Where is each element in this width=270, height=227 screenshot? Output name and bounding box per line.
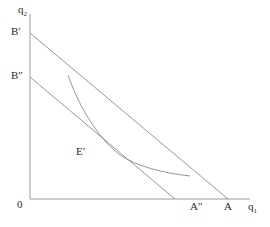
label-a-double-prime-mark: ″ (198, 200, 203, 212)
y-axis-label-subscript: 2 (24, 10, 28, 18)
x-axis-label: q1 (248, 201, 257, 215)
label-b-double-prime: B″ (11, 70, 23, 81)
label-b-prime-mark: ′ (18, 25, 20, 37)
upper-budget-line (30, 33, 228, 199)
label-b-prime: B′ (11, 26, 21, 37)
x-axis-label-subscript: 1 (254, 207, 258, 215)
y-axis-label: q2 (18, 4, 27, 18)
origin-label: 0 (17, 199, 23, 210)
label-e-prime-base: E (76, 145, 83, 157)
label-a: A (224, 201, 232, 212)
label-a-double-prime-base: A (190, 200, 198, 212)
label-a-double-prime: A″ (190, 201, 203, 212)
label-e-prime: E′ (76, 146, 85, 157)
diagram-canvas (0, 0, 270, 227)
label-b-double-prime-mark: ″ (18, 69, 23, 81)
economics-diagram-figure: q2 q1 0 B′ B″ E′ A″ A (0, 0, 270, 227)
label-e-prime-mark: ′ (83, 145, 85, 157)
